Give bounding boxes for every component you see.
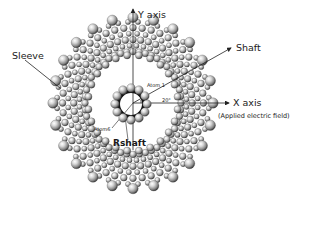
atom — [126, 170, 131, 175]
atom — [94, 165, 101, 172]
atom — [71, 158, 81, 168]
atom — [82, 75, 87, 80]
atom — [184, 97, 189, 102]
atom — [74, 146, 81, 153]
atom — [179, 46, 186, 53]
atom — [177, 61, 184, 68]
atom — [113, 46, 118, 51]
atom — [107, 158, 114, 165]
atom — [95, 57, 100, 62]
atom — [184, 158, 194, 168]
atom — [171, 81, 178, 88]
atom — [159, 45, 166, 52]
atom — [102, 61, 109, 68]
atom — [86, 69, 91, 74]
atom — [145, 38, 152, 45]
atom — [88, 144, 95, 151]
atom — [151, 166, 156, 171]
atom — [110, 166, 115, 171]
atom — [188, 91, 195, 98]
atom — [82, 126, 87, 131]
atom — [94, 34, 101, 41]
atom — [82, 55, 87, 60]
atom — [78, 89, 83, 94]
atom — [160, 148, 165, 153]
atom — [175, 132, 180, 137]
atom — [59, 55, 69, 65]
atom — [139, 174, 146, 181]
atom — [134, 43, 139, 48]
atom — [77, 62, 82, 67]
atom — [135, 31, 140, 36]
rshaft-label: Rshaft — [113, 139, 146, 148]
atom — [120, 44, 125, 49]
atom — [174, 106, 181, 113]
atom — [111, 27, 118, 34]
atom6-label: Atom6 — [94, 127, 110, 132]
atom — [113, 108, 122, 117]
atom — [154, 49, 159, 54]
atom — [86, 132, 91, 137]
atom — [69, 137, 76, 144]
atom — [124, 147, 131, 154]
atom — [128, 183, 138, 193]
atom — [151, 35, 156, 40]
atom — [143, 168, 148, 173]
atom — [172, 55, 179, 62]
atom — [171, 138, 176, 143]
atom — [152, 158, 159, 165]
atom — [130, 175, 137, 182]
atom — [107, 152, 112, 157]
atom — [181, 131, 188, 138]
atom — [83, 138, 90, 145]
atom — [94, 49, 101, 56]
atom — [197, 141, 207, 151]
angle-arc — [141, 100, 142, 103]
atom — [127, 158, 132, 163]
atom — [173, 159, 180, 166]
atom — [194, 87, 199, 92]
atom — [141, 92, 150, 101]
atom — [175, 69, 180, 74]
atom — [181, 82, 186, 87]
atom — [165, 129, 172, 136]
atom — [184, 62, 189, 67]
atom — [88, 118, 95, 125]
atom — [205, 120, 215, 130]
atom — [179, 146, 184, 151]
atom — [186, 54, 193, 61]
atom — [127, 43, 132, 48]
atom — [107, 181, 117, 191]
atom — [102, 163, 107, 168]
atom — [100, 155, 107, 162]
atom — [195, 71, 202, 78]
atom — [67, 87, 72, 92]
atom — [166, 144, 171, 149]
atom — [48, 98, 58, 108]
x-axis-label: X axis — [233, 98, 262, 108]
atom — [181, 119, 186, 124]
atom — [94, 43, 99, 48]
atom — [90, 138, 95, 143]
angle-label: 20° — [162, 98, 171, 103]
atom — [148, 172, 155, 179]
atom — [101, 148, 106, 153]
atom — [135, 147, 142, 154]
atom — [122, 162, 129, 169]
atom — [118, 168, 123, 173]
atom1-label: Atom 1 — [147, 83, 165, 88]
atom — [157, 169, 164, 176]
atom — [90, 63, 95, 68]
atom — [66, 105, 71, 110]
atom — [173, 48, 178, 53]
atom — [179, 126, 184, 131]
atom — [165, 34, 172, 41]
atom — [166, 49, 173, 56]
atom — [148, 46, 153, 51]
atom — [194, 114, 199, 119]
atom — [77, 97, 82, 102]
atom — [66, 96, 71, 101]
atom — [143, 100, 152, 109]
atom — [157, 138, 164, 145]
atom — [192, 123, 197, 128]
